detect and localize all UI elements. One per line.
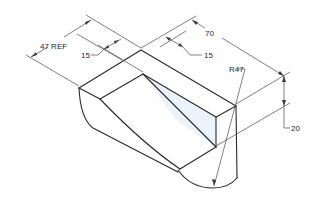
top-inner-edge-back	[100, 74, 143, 99]
lower-slant-edge	[100, 99, 180, 169]
dim-label-15-left: 15	[81, 51, 90, 60]
dim-label-20: 20	[291, 124, 300, 133]
dimension-20: 20	[216, 76, 300, 146]
step-bottom-edge	[180, 147, 216, 169]
right-vertical-edge	[236, 106, 237, 178]
dimension-r47: R47	[212, 65, 245, 186]
dim-label-15-right: 15	[204, 51, 213, 60]
dim-label-70: 70	[205, 29, 214, 38]
bottom-curve	[178, 170, 237, 188]
dim-label-47-ref: 47 REF	[40, 42, 67, 51]
dim-label-r47: R47	[229, 65, 244, 74]
isometric-drawing: 47 REF 15 70 15 R47	[0, 0, 315, 218]
top-inner-edge-left	[79, 88, 100, 99]
